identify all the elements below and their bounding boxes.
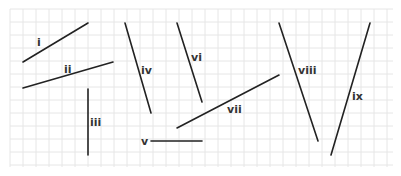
segment-v: v bbox=[141, 135, 202, 148]
segment-iii: iii bbox=[88, 89, 101, 155]
segment-line bbox=[23, 23, 88, 62]
segment-ix: ix bbox=[331, 23, 370, 155]
segment-label: vii bbox=[227, 103, 242, 116]
grid bbox=[10, 9, 393, 167]
segment-label: iv bbox=[141, 64, 153, 77]
segment-label: iii bbox=[90, 116, 101, 129]
line-segments-diagram: iiiiiiivvviviiviiiix bbox=[0, 0, 401, 176]
segment-line bbox=[331, 23, 370, 155]
segment-label: ii bbox=[64, 63, 72, 76]
segment-viii: viii bbox=[279, 23, 318, 141]
segment-i: i bbox=[23, 23, 88, 62]
segment-label: i bbox=[37, 36, 41, 49]
segment-label: ix bbox=[352, 90, 363, 103]
segment-label: viii bbox=[298, 64, 316, 77]
segment-label: v bbox=[141, 135, 149, 148]
segment-label: vi bbox=[191, 51, 202, 64]
segment-line bbox=[279, 23, 318, 141]
diagram-svg: iiiiiiivvviviiviiiix bbox=[0, 0, 401, 176]
